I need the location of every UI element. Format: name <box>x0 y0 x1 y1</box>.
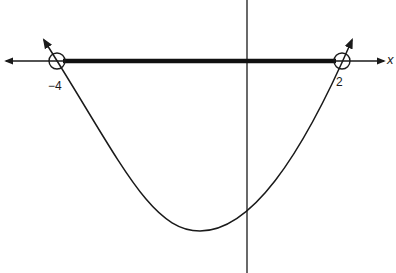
parabola-curve <box>44 40 352 231</box>
parabola-graph <box>0 0 396 273</box>
root-label-left: −4 <box>48 80 62 92</box>
root-label-right: 2 <box>336 76 343 88</box>
x-axis-label: x <box>387 53 394 66</box>
